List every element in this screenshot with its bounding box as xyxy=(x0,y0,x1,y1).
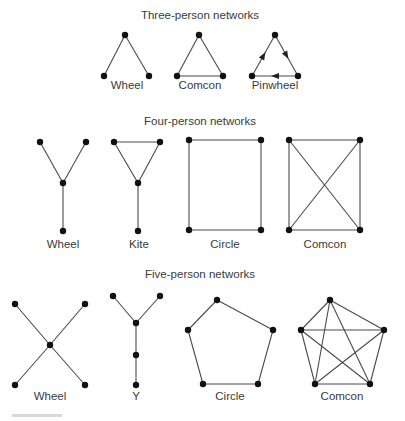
arrows-layer xyxy=(259,51,289,79)
node-five-comcon xyxy=(367,381,373,387)
node-five-wheel xyxy=(12,382,18,388)
label-three-pinwheel: Pinwheel xyxy=(252,79,299,91)
edge-five-y xyxy=(113,296,136,323)
faded-caption-fragment xyxy=(12,414,62,417)
node-five-y xyxy=(133,320,139,326)
node-five-circle xyxy=(214,297,220,303)
network-diagram-canvas: Three-person networks Four-person networ… xyxy=(0,0,405,421)
node-five-y xyxy=(133,382,139,388)
edge-three-wheel xyxy=(125,35,149,76)
node-four-comcon xyxy=(286,137,292,143)
node-four-kite xyxy=(135,228,141,234)
node-five-circle xyxy=(270,327,276,333)
edge-five-circle xyxy=(188,300,217,330)
node-five-comcon xyxy=(327,297,333,303)
edge-five-comcon xyxy=(315,330,384,384)
edge-five-comcon xyxy=(370,330,384,384)
node-four-circle xyxy=(258,137,264,143)
edge-five-wheel xyxy=(50,345,85,385)
edge-five-comcon xyxy=(301,330,315,384)
node-four-wheel xyxy=(83,139,89,145)
node-four-comcon xyxy=(357,227,363,233)
node-five-comcon xyxy=(381,327,387,333)
edge-four-kite xyxy=(138,142,160,183)
node-five-comcon xyxy=(312,381,318,387)
edge-five-y xyxy=(136,296,160,323)
communication-networks-figure: Three-person networks Four-person networ… xyxy=(0,0,405,421)
label-five-y: Y xyxy=(132,390,140,402)
edge-four-kite xyxy=(114,142,138,183)
node-four-circle xyxy=(186,227,192,233)
edge-five-wheel xyxy=(15,304,50,345)
label-three-comcon: Comcon xyxy=(179,79,222,91)
node-five-circle xyxy=(255,381,261,387)
label-four-comcon: Comcon xyxy=(304,238,347,250)
node-three-pinwheel xyxy=(272,32,278,38)
arrowhead-icon xyxy=(282,51,289,59)
section-title-four-person: Four-person networks xyxy=(144,115,256,127)
node-three-wheel xyxy=(146,73,152,79)
node-five-y xyxy=(110,293,116,299)
node-four-wheel xyxy=(37,139,43,145)
edge-four-wheel xyxy=(63,142,86,183)
label-five-comcon: Comcon xyxy=(321,390,364,402)
arrowhead-icon xyxy=(259,52,266,60)
label-four-circle: Circle xyxy=(210,238,239,250)
section-title-five-person: Five-person networks xyxy=(145,268,255,280)
section-title-three-person: Three-person networks xyxy=(141,9,259,21)
label-three-wheel: Wheel xyxy=(111,79,144,91)
node-five-circle xyxy=(185,327,191,333)
node-five-circle xyxy=(200,381,206,387)
edge-five-circle xyxy=(217,300,273,330)
edge-five-comcon xyxy=(301,330,370,384)
node-five-wheel xyxy=(82,382,88,388)
text-layer: Three-person networks Four-person networ… xyxy=(34,9,364,402)
node-three-comcon xyxy=(196,32,202,38)
edge-five-circle xyxy=(258,330,273,384)
edge-five-comcon xyxy=(330,300,384,330)
node-five-y xyxy=(133,352,139,358)
node-four-wheel xyxy=(60,180,66,186)
edge-four-wheel xyxy=(40,142,63,183)
node-three-wheel xyxy=(101,73,107,79)
node-five-comcon xyxy=(298,327,304,333)
node-five-y xyxy=(157,293,163,299)
edge-five-circle xyxy=(188,330,203,384)
edge-five-wheel xyxy=(15,345,50,385)
node-four-kite xyxy=(135,180,141,186)
node-three-wheel xyxy=(122,32,128,38)
label-five-wheel: Wheel xyxy=(34,390,67,402)
label-four-kite: Kite xyxy=(129,238,149,250)
edge-three-wheel xyxy=(104,35,125,76)
node-four-circle xyxy=(258,227,264,233)
edge-three-comcon xyxy=(177,35,199,76)
node-four-wheel xyxy=(60,228,66,234)
edge-five-wheel xyxy=(50,304,85,345)
edge-three-comcon xyxy=(199,35,223,76)
node-four-circle xyxy=(186,137,192,143)
node-five-wheel xyxy=(82,301,88,307)
label-four-wheel: Wheel xyxy=(47,238,80,250)
node-five-wheel xyxy=(47,342,53,348)
node-four-kite xyxy=(111,139,117,145)
node-four-comcon xyxy=(286,227,292,233)
node-four-comcon xyxy=(357,137,363,143)
label-five-circle: Circle xyxy=(215,390,244,402)
node-five-wheel xyxy=(12,301,18,307)
node-four-kite xyxy=(157,139,163,145)
edge-five-comcon xyxy=(330,300,370,384)
